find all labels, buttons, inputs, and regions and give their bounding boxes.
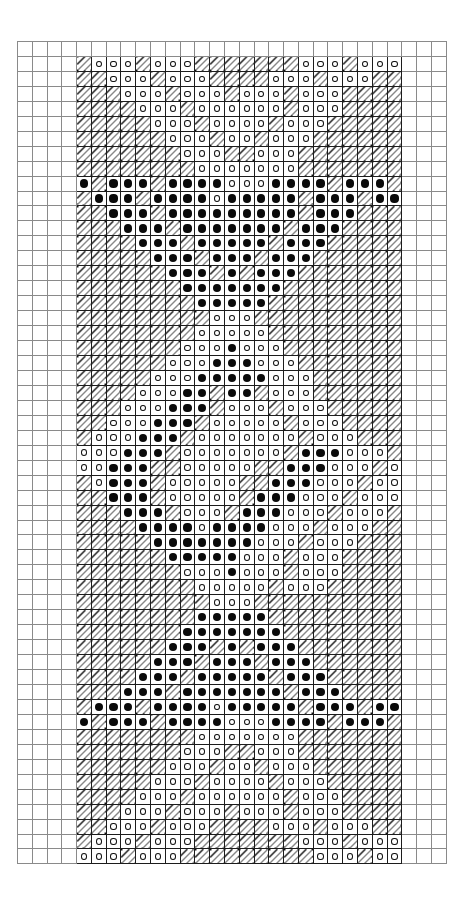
stitch-cell-hatch	[372, 550, 387, 565]
stitch-cell-hatch	[357, 580, 372, 595]
stitch-cell-hatch	[357, 550, 372, 565]
stitch-cell-filled-dot	[210, 356, 225, 371]
stitch-cell-filled-dot	[151, 236, 166, 251]
stitch-cell-filled-dot	[269, 221, 284, 236]
stitch-cell-filled-dot	[239, 191, 254, 206]
stitch-cell-filled-dot	[121, 490, 136, 505]
stitch-cell-open-circle	[195, 445, 210, 460]
stitch-cell-filled-dot	[269, 640, 284, 655]
stitch-cell-hatch	[298, 430, 313, 445]
grid-cell-empty	[417, 56, 432, 71]
stitch-cell-hatch	[106, 131, 121, 146]
stitch-cell-hatch	[372, 819, 387, 834]
stitch-cell-filled-dot	[269, 251, 284, 266]
grid-cell-empty	[62, 385, 77, 400]
stitch-cell-hatch	[136, 191, 151, 206]
stitch-cell-hatch	[195, 415, 210, 430]
stitch-cell-hatch	[372, 625, 387, 640]
stitch-cell-hatch	[357, 385, 372, 400]
grid-cell-empty	[417, 475, 432, 490]
grid-cell-empty	[47, 370, 62, 385]
stitch-cell-hatch	[106, 146, 121, 161]
grid-cell-empty	[62, 774, 77, 789]
stitch-cell-open-circle	[298, 774, 313, 789]
stitch-cell-hatch	[121, 655, 136, 670]
stitch-cell-hatch	[298, 535, 313, 550]
grid-cell-empty	[47, 595, 62, 610]
stitch-cell-open-circle	[254, 356, 269, 371]
stitch-cell-hatch	[343, 580, 358, 595]
stitch-cell-hatch	[313, 744, 328, 759]
grid-cell-empty	[417, 520, 432, 535]
stitch-cell-hatch	[343, 789, 358, 804]
stitch-cell-open-circle	[298, 131, 313, 146]
grid-cell-empty	[32, 86, 47, 101]
grid-cell-empty	[32, 116, 47, 131]
stitch-cell-hatch	[372, 460, 387, 475]
stitch-cell-hatch	[151, 326, 166, 341]
stitch-cell-hatch	[372, 565, 387, 580]
stitch-cell-open-circle	[269, 804, 284, 819]
stitch-row	[18, 819, 447, 834]
stitch-cell-hatch	[343, 550, 358, 565]
stitch-cell-filled-dot	[239, 655, 254, 670]
grid-cell-empty	[62, 296, 77, 311]
grid-cell-empty	[18, 430, 33, 445]
stitch-cell-open-circle	[269, 101, 284, 116]
stitch-row	[18, 116, 447, 131]
stitch-cell-hatch	[387, 221, 402, 236]
stitch-cell-open-circle	[195, 789, 210, 804]
stitch-cell-open-circle	[239, 595, 254, 610]
stitch-cell-open-circle	[195, 819, 210, 834]
stitch-cell-hatch	[387, 385, 402, 400]
grid-cell-empty	[431, 42, 446, 57]
grid-cell-empty	[32, 146, 47, 161]
stitch-cell-hatch	[284, 296, 299, 311]
stitch-cell-hatch	[343, 131, 358, 146]
stitch-cell-hatch	[284, 595, 299, 610]
grid-cell-empty	[18, 191, 33, 206]
stitch-cell-hatch	[136, 326, 151, 341]
stitch-cell-hatch	[91, 684, 106, 699]
grid-cell-empty	[18, 56, 33, 71]
stitch-cell-open-circle	[284, 535, 299, 550]
stitch-cell-open-circle	[269, 565, 284, 580]
grid-cell-empty	[269, 42, 284, 57]
stitch-cell-open-circle	[239, 326, 254, 341]
stitch-cell-hatch	[151, 206, 166, 221]
grid-cell-empty	[62, 266, 77, 281]
stitch-cell-hatch	[343, 415, 358, 430]
stitch-cell-filled-dot	[328, 206, 343, 221]
stitch-cell-hatch	[357, 146, 372, 161]
stitch-cell-hatch	[106, 655, 121, 670]
stitch-cell-filled-dot	[136, 684, 151, 699]
stitch-cell-open-circle	[151, 101, 166, 116]
grid-cell-empty	[417, 400, 432, 415]
stitch-cell-open-circle	[151, 774, 166, 789]
grid-cell-empty	[18, 146, 33, 161]
stitch-cell-open-circle	[180, 71, 195, 86]
stitch-cell-open-circle	[180, 370, 195, 385]
grid-cell-empty	[417, 804, 432, 819]
grid-cell-empty	[431, 430, 446, 445]
stitch-cell-filled-dot	[210, 520, 225, 535]
stitch-cell-open-circle	[387, 849, 402, 864]
stitch-cell-hatch	[151, 131, 166, 146]
stitch-cell-open-circle	[151, 116, 166, 131]
stitch-cell-filled-dot	[195, 699, 210, 714]
stitch-cell-open-circle	[195, 146, 210, 161]
stitch-cell-hatch	[269, 580, 284, 595]
stitch-cell-hatch	[121, 311, 136, 326]
grid-cell-empty	[62, 415, 77, 430]
grid-cell-empty	[18, 640, 33, 655]
stitch-cell-open-circle	[298, 415, 313, 430]
stitch-cell-hatch	[328, 266, 343, 281]
grid-cell-empty	[18, 296, 33, 311]
stitch-cell-filled-dot	[195, 550, 210, 565]
stitch-cell-hatch	[387, 341, 402, 356]
stitch-cell-hatch	[313, 326, 328, 341]
grid-cell-empty	[32, 729, 47, 744]
stitch-cell-filled-dot	[298, 475, 313, 490]
stitch-cell-hatch	[372, 520, 387, 535]
stitch-cell-hatch	[106, 101, 121, 116]
